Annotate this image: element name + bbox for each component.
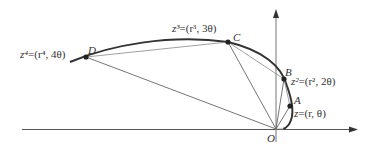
point-A-formula: z=(r, θ) (293, 107, 326, 120)
ray-OD (86, 57, 276, 129)
point-A (287, 103, 292, 108)
point-D-formula: z⁴=(r⁴, 4θ) (19, 48, 66, 61)
point-B-formula: z²=(r², 2θ) (290, 75, 336, 88)
complex-powers-diagram: O A z=(r, θ) B z²=(r², 2θ) C z³=(r³, 3θ)… (0, 0, 372, 153)
point-A-label: A (293, 94, 301, 106)
origin-label: O (267, 132, 275, 144)
spiral-curve (70, 39, 292, 129)
point-D-label: D (87, 44, 96, 56)
point-C-formula: z³=(r³, 3θ) (171, 22, 217, 35)
ray-OB (276, 79, 284, 129)
point-C-label: C (233, 31, 241, 43)
ray-OC (228, 42, 276, 129)
point-C (225, 39, 230, 44)
imaginary-axis-arrow-icon (273, 9, 279, 18)
real-axis-arrow-icon (349, 127, 358, 133)
